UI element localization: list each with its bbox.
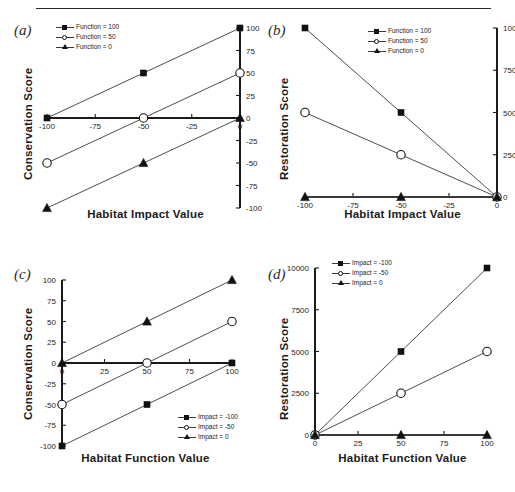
square-marker-icon xyxy=(56,23,74,31)
legend-item[interactable]: Function = 0 xyxy=(368,46,431,56)
svg-text:75: 75 xyxy=(246,47,255,56)
svg-text:50: 50 xyxy=(143,367,152,376)
svg-text:-25: -25 xyxy=(443,201,455,210)
svg-text:25: 25 xyxy=(354,439,363,448)
svg-text:-100: -100 xyxy=(39,122,56,131)
legend-item[interactable]: Impact = 0 xyxy=(332,278,392,288)
svg-text:0: 0 xyxy=(503,193,508,202)
legend-item[interactable]: Function = 100 xyxy=(368,26,431,36)
svg-text:-50: -50 xyxy=(395,201,407,210)
svg-text:25: 25 xyxy=(47,338,56,347)
svg-text:-75: -75 xyxy=(44,421,56,430)
svg-text:-25: -25 xyxy=(186,122,198,131)
svg-text:10000: 10000 xyxy=(503,24,515,33)
svg-text:0: 0 xyxy=(246,114,251,123)
legend-item[interactable]: Function = 50 xyxy=(56,32,119,42)
panel-a-legend: Function = 100 Function = 50 Function = … xyxy=(56,22,119,52)
panel-c-plot: 02550751001007550250-25-50-75-100 xyxy=(0,246,260,492)
legend-item[interactable]: Function = 50 xyxy=(368,36,431,46)
panel-d-legend: Impact = -100 Impact = -50 Impact = 0 xyxy=(332,258,392,288)
svg-text:7500: 7500 xyxy=(291,306,309,315)
svg-text:75: 75 xyxy=(47,297,56,306)
svg-text:10000: 10000 xyxy=(287,264,310,273)
svg-text:100: 100 xyxy=(225,367,239,376)
svg-text:5000: 5000 xyxy=(291,348,309,357)
svg-text:50: 50 xyxy=(47,318,56,327)
panel-b-legend: Function = 100 Function = 50 Function = … xyxy=(368,26,431,56)
panel-a-plot: -100-75-50-2501007550250-25-50-75-100 xyxy=(0,0,260,240)
circle-marker-icon xyxy=(178,423,196,431)
svg-text:0: 0 xyxy=(313,439,318,448)
svg-text:100: 100 xyxy=(43,276,57,285)
circle-marker-icon xyxy=(368,37,386,45)
svg-text:7500: 7500 xyxy=(503,66,515,75)
svg-text:75: 75 xyxy=(185,367,194,376)
triangle-marker-icon xyxy=(368,47,386,55)
legend-item[interactable]: Impact = -100 xyxy=(178,412,238,422)
legend-item[interactable]: Impact = -100 xyxy=(332,258,392,268)
svg-text:50: 50 xyxy=(397,439,406,448)
triangle-marker-icon xyxy=(56,43,74,51)
svg-text:25: 25 xyxy=(100,367,109,376)
square-marker-icon xyxy=(368,27,386,35)
legend-item[interactable]: Function = 0 xyxy=(56,42,119,52)
circle-marker-icon xyxy=(332,269,350,277)
triangle-marker-icon xyxy=(332,279,350,287)
svg-text:25: 25 xyxy=(246,92,255,101)
svg-text:75: 75 xyxy=(440,439,449,448)
square-marker-icon xyxy=(178,413,196,421)
svg-text:2500: 2500 xyxy=(503,151,515,160)
svg-text:2500: 2500 xyxy=(291,389,309,398)
legend-item[interactable]: Impact = 0 xyxy=(178,432,238,442)
legend-item[interactable]: Impact = -50 xyxy=(178,422,238,432)
svg-text:-100: -100 xyxy=(40,442,57,451)
svg-text:0: 0 xyxy=(52,359,57,368)
svg-text:5000: 5000 xyxy=(503,109,515,118)
svg-text:-50: -50 xyxy=(44,401,56,410)
svg-text:50: 50 xyxy=(246,69,255,78)
svg-text:0: 0 xyxy=(305,431,310,440)
svg-text:-100: -100 xyxy=(297,201,314,210)
svg-text:0: 0 xyxy=(495,201,500,210)
legend-item[interactable]: Function = 100 xyxy=(56,22,119,32)
svg-text:100: 100 xyxy=(480,439,494,448)
panel-c-legend: Impact = -100 Impact = -50 Impact = 0 xyxy=(178,412,238,442)
legend-item[interactable]: Impact = -50 xyxy=(332,268,392,278)
svg-text:-75: -75 xyxy=(347,201,359,210)
triangle-marker-icon xyxy=(178,433,196,441)
square-marker-icon xyxy=(332,259,350,267)
svg-text:-25: -25 xyxy=(44,380,56,389)
svg-text:-50: -50 xyxy=(138,122,150,131)
circle-marker-icon xyxy=(56,33,74,41)
svg-text:-75: -75 xyxy=(89,122,101,131)
